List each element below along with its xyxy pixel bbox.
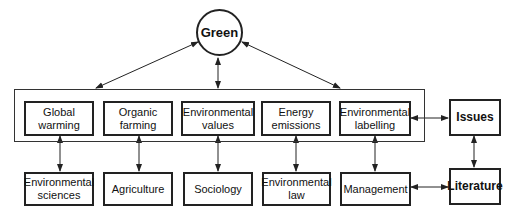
theme-energy-emissions: Energy emissions: [261, 101, 331, 136]
theme-environmental-labelling: Environmental labelling: [339, 101, 411, 136]
literature-label: Literature: [447, 180, 502, 193]
theme-label: Energy emissions: [272, 106, 321, 132]
discipline-environmental-law: Environmental law: [262, 172, 331, 206]
green-node: Green: [196, 9, 243, 56]
theme-label: Environmental labelling: [340, 106, 410, 132]
discipline-environmental-sciences: Environmental sciences: [24, 172, 94, 206]
literature-node: Literature: [449, 168, 501, 205]
discipline-label: Environmental sciences: [24, 176, 94, 202]
discipline-sociology: Sociology: [183, 172, 253, 206]
discipline-management: Management: [340, 172, 411, 206]
discipline-label: Agriculture: [112, 183, 165, 196]
issues-node: Issues: [449, 99, 501, 136]
theme-label: Organic farming: [119, 106, 158, 132]
theme-label: Environmental values: [183, 106, 253, 132]
diagram: Green Global warming Organic farming Env…: [0, 0, 515, 217]
discipline-label: Management: [343, 183, 407, 196]
discipline-label: Sociology: [194, 183, 242, 196]
theme-label: Global warming: [38, 106, 80, 132]
issues-label: Issues: [456, 111, 493, 124]
theme-global-warming: Global warming: [24, 101, 94, 136]
theme-environmental-values: Environmental values: [181, 101, 255, 136]
theme-organic-farming: Organic farming: [103, 101, 173, 136]
discipline-agriculture: Agriculture: [103, 172, 173, 206]
green-label: Green: [201, 25, 239, 40]
discipline-label: Environmental law: [261, 176, 331, 202]
